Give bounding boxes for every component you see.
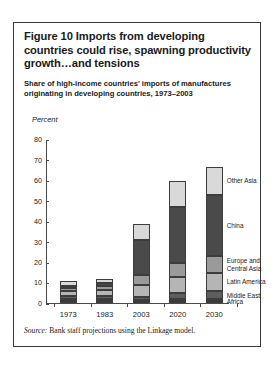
source-text: Bank staff projections using the Linkage… (47, 326, 195, 335)
bar-segment (169, 299, 186, 303)
legend-label-europe-and: Europe andCentral Asia (227, 257, 274, 272)
bar-segment (96, 279, 113, 283)
y-tick-mark (46, 181, 49, 182)
bar-segment (60, 299, 77, 303)
x-tick-label: 2003 (124, 310, 158, 319)
legend-label-line: Central Asia (227, 265, 274, 272)
bar-segment (133, 297, 150, 300)
bar-segment (206, 291, 223, 299)
y-tick-mark (46, 201, 49, 202)
bar-segment (60, 281, 77, 286)
legend-label-line: Latin America (227, 278, 274, 285)
bar-segment (96, 283, 113, 286)
x-tick-mark (127, 304, 128, 307)
bar-segment (96, 299, 113, 303)
bar-segment (60, 288, 77, 291)
bar-segment (133, 240, 150, 275)
bar-segment (169, 207, 186, 262)
chart-plot-area: 0102030405060708019731983200320202030Oth… (14, 23, 262, 348)
bar-segment (96, 290, 113, 296)
y-tick-label: 10 (22, 279, 42, 286)
x-tick-label: 1973 (51, 310, 85, 319)
x-tick-label: 2020 (161, 310, 195, 319)
y-tick-label: 30 (22, 239, 42, 246)
bar-segment (60, 286, 77, 288)
x-tick-mark (164, 304, 165, 307)
bar-segment (96, 286, 113, 290)
bar-segment (60, 291, 77, 296)
x-tick-mark (91, 304, 92, 307)
source-prefix: Source: (24, 326, 47, 335)
legend-label-china: China (227, 222, 274, 229)
bar-segment (206, 256, 223, 272)
legend-label-latin-america: Latin America (227, 278, 274, 285)
bar-segment (133, 275, 150, 285)
y-tick-mark (46, 263, 49, 264)
bar-segment (206, 195, 223, 256)
bar-segment (169, 181, 186, 208)
y-tick-mark (46, 283, 49, 284)
legend-label-africa: Africa (227, 298, 274, 305)
y-tick-label: 60 (22, 177, 42, 184)
figure-container: Figure 10 Imports from developing countr… (13, 22, 261, 347)
y-tick-label: 20 (22, 259, 42, 266)
bar-segment (206, 299, 223, 303)
x-tick-mark (200, 304, 201, 307)
legend-label-line: Africa (227, 298, 274, 305)
y-tick-mark (46, 222, 49, 223)
x-tick-mark (54, 304, 55, 307)
bar-segment (169, 263, 186, 277)
y-tick-mark (46, 242, 49, 243)
bar-segment (60, 296, 77, 299)
y-tick-label: 70 (22, 157, 42, 164)
x-tick-label: 1983 (88, 310, 122, 319)
y-tick-mark (46, 140, 49, 141)
bar-segment (96, 296, 113, 299)
y-tick-label: 40 (22, 218, 42, 225)
legend-label-other-asia: Other Asia (227, 177, 274, 184)
y-tick-mark (46, 304, 49, 305)
y-tick-mark (46, 160, 49, 161)
y-tick-label: 0 (22, 300, 42, 307)
figure-source: Source: Bank staff projections using the… (24, 326, 254, 335)
bar-segment (133, 224, 150, 240)
legend-label-line: Other Asia (227, 177, 274, 184)
bar-segment (169, 277, 186, 293)
bar-segment (169, 293, 186, 299)
x-tick-label: 2030 (197, 310, 231, 319)
bar-segment (206, 273, 223, 291)
legend-label-line: China (227, 222, 274, 229)
y-tick-label: 80 (22, 136, 42, 143)
legend-label-line: Europe and (227, 257, 274, 264)
bar-segment (133, 285, 150, 297)
bar-segment (206, 167, 223, 196)
bar-segment (133, 300, 150, 303)
y-tick-label: 50 (22, 198, 42, 205)
